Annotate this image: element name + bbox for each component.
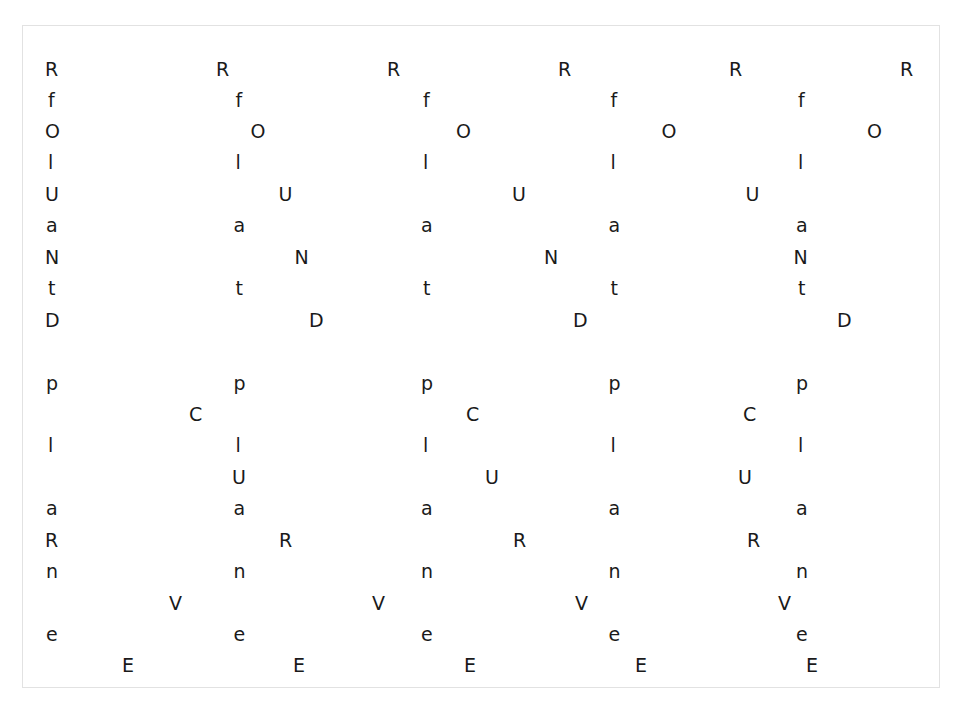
glyph-t-r7-c1: t <box>236 279 243 298</box>
glyph-t-r7-c0: t <box>48 279 55 298</box>
glyph-p-r9-c0: p <box>46 374 58 393</box>
glyph-l-r11-c1: l <box>236 436 241 455</box>
glyph-e-r17-c2: e <box>421 625 433 644</box>
glyph-f-r1-c3: f <box>611 91 618 110</box>
glyph-V-r16-c1: V <box>372 594 385 613</box>
glyph-R-r0-c1: R <box>216 60 229 79</box>
glyph-f-r1-c2: f <box>423 91 430 110</box>
glyph-U-r12-c2: U <box>738 468 752 487</box>
glyph-U-r12-c1: U <box>485 468 499 487</box>
glyph-D-r8-c1: D <box>309 311 324 330</box>
glyph-f-r1-c1: f <box>236 91 243 110</box>
glyph-C-r10-c2: C <box>743 405 756 424</box>
glyph-O-r2-c1: O <box>251 122 266 141</box>
glyph-e-r17-c0: e <box>46 625 58 644</box>
glyph-R-r14-c1: R <box>279 531 292 550</box>
glyph-C-r10-c1: C <box>466 405 479 424</box>
glyph-a-r13-c2: a <box>421 499 433 518</box>
glyph-t-r7-c4: t <box>798 279 805 298</box>
glyph-U-r4-c1: U <box>279 185 293 204</box>
glyph-E-r18-c4: E <box>806 656 818 675</box>
pattern-frame: RRRRRRfffffOOOOOlllllUUUUaaaaaNNNNtttttD… <box>22 25 940 688</box>
glyph-a-r5-c4: a <box>796 216 808 235</box>
glyph-E-r18-c2: E <box>464 656 476 675</box>
glyph-N-r6-c0: N <box>45 248 59 267</box>
glyph-O-r2-c0: O <box>45 122 60 141</box>
glyph-U-r4-c3: U <box>746 185 760 204</box>
glyph-a-r5-c0: a <box>46 216 58 235</box>
glyph-V-r16-c2: V <box>575 594 588 613</box>
glyph-l-r11-c3: l <box>611 436 616 455</box>
glyph-l-r3-c0: l <box>48 153 53 172</box>
glyph-R-r0-c3: R <box>558 60 571 79</box>
glyph-D-r8-c0: D <box>45 311 60 330</box>
glyph-l-r11-c0: l <box>48 436 53 455</box>
glyph-n-r15-c0: n <box>46 562 58 581</box>
glyph-R-r14-c2: R <box>513 531 526 550</box>
glyph-n-r15-c4: n <box>796 562 808 581</box>
glyph-t-r7-c2: t <box>423 279 430 298</box>
glyph-e-r17-c3: e <box>609 625 621 644</box>
glyph-U-r4-c2: U <box>512 185 526 204</box>
pattern-canvas: RRRRRRfffffOOOOOlllllUUUUaaaaaNNNNtttttD… <box>0 0 963 723</box>
glyph-E-r18-c1: E <box>293 656 305 675</box>
glyph-e-r17-c1: e <box>234 625 246 644</box>
glyph-l-r3-c4: l <box>798 153 803 172</box>
glyph-R-r0-c0: R <box>45 60 58 79</box>
glyph-a-r5-c2: a <box>421 216 433 235</box>
glyph-N-r6-c3: N <box>794 248 808 267</box>
glyph-R-r14-c0: R <box>45 531 58 550</box>
glyph-a-r13-c4: a <box>796 499 808 518</box>
glyph-l-r11-c4: l <box>798 436 803 455</box>
glyph-l-r11-c2: l <box>423 436 428 455</box>
glyph-l-r3-c2: l <box>423 153 428 172</box>
glyph-a-r13-c1: a <box>234 499 246 518</box>
glyph-p-r9-c3: p <box>609 374 621 393</box>
glyph-D-r8-c2: D <box>573 311 588 330</box>
glyph-N-r6-c1: N <box>295 248 309 267</box>
glyph-t-r7-c3: t <box>611 279 618 298</box>
glyph-O-r2-c4: O <box>867 122 882 141</box>
glyph-R-r0-c2: R <box>387 60 400 79</box>
glyph-l-r3-c1: l <box>236 153 241 172</box>
glyph-a-r5-c1: a <box>234 216 246 235</box>
glyph-N-r6-c2: N <box>544 248 558 267</box>
glyph-U-r4-c0: U <box>45 185 59 204</box>
glyph-e-r17-c4: e <box>796 625 808 644</box>
glyph-R-r0-c4: R <box>729 60 742 79</box>
glyph-f-r1-c4: f <box>798 91 805 110</box>
glyph-n-r15-c1: n <box>234 562 246 581</box>
glyph-C-r10-c0: C <box>189 405 202 424</box>
glyph-a-r5-c3: a <box>609 216 621 235</box>
glyph-R-r14-c3: R <box>747 531 760 550</box>
glyph-D-r8-c3: D <box>837 311 852 330</box>
glyph-f-r1-c0: f <box>48 91 55 110</box>
glyph-n-r15-c3: n <box>609 562 621 581</box>
glyph-l-r3-c3: l <box>611 153 616 172</box>
glyph-R-r0-c5: R <box>900 60 913 79</box>
glyph-p-r9-c4: p <box>796 374 808 393</box>
glyph-V-r16-c3: V <box>778 594 791 613</box>
glyph-O-r2-c3: O <box>662 122 677 141</box>
glyph-E-r18-c0: E <box>122 656 134 675</box>
glyph-a-r13-c3: a <box>609 499 621 518</box>
glyph-V-r16-c0: V <box>169 594 182 613</box>
glyph-U-r12-c0: U <box>232 468 246 487</box>
glyph-n-r15-c2: n <box>421 562 433 581</box>
glyph-a-r13-c0: a <box>46 499 58 518</box>
glyph-E-r18-c3: E <box>635 656 647 675</box>
glyph-p-r9-c1: p <box>234 374 246 393</box>
glyph-p-r9-c2: p <box>421 374 433 393</box>
glyph-O-r2-c2: O <box>456 122 471 141</box>
